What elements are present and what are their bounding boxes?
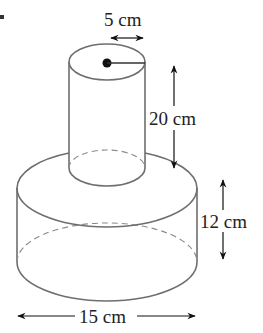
large-cylinder-top-back-edge-left — [17, 153, 69, 188]
small-cylinder-base-hidden-edge — [69, 150, 145, 168]
small-height-label: 20 cm — [149, 108, 196, 129]
large-cylinder-bottom-front-edge — [17, 262, 197, 301]
diameter-label: 15 cm — [79, 306, 126, 327]
small-cylinder-base-front-edge — [69, 168, 145, 186]
large-cylinder-top-back-edge-right — [145, 153, 197, 188]
large-cylinder-top-front-edge — [17, 188, 197, 227]
large-cylinder — [17, 153, 197, 301]
large-height-label: 12 cm — [200, 211, 247, 232]
large-cylinder-bottom-hidden-edge — [17, 223, 197, 262]
radius-label: 5 cm — [104, 9, 142, 30]
composite-cylinder-diagram: 5 cm 20 cm 12 cm 15 cm — [0, 0, 263, 333]
stray-mark — [0, 15, 4, 19]
